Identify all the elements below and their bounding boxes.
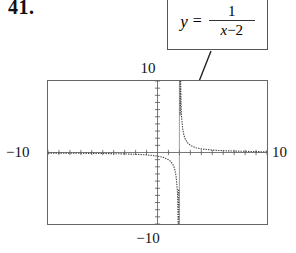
window-label-xmax: 10: [272, 144, 287, 160]
fraction-bar: [209, 20, 255, 21]
window-label-ymax: 10: [0, 60, 296, 76]
window-label-ymin: −10: [0, 230, 296, 246]
denominator-operator: −: [227, 22, 235, 38]
graph-frame: [47, 80, 268, 225]
window-label-xmin: −10: [6, 144, 29, 160]
problem-number: 41.: [8, 0, 35, 18]
fraction: 1 x−2: [209, 3, 255, 39]
fraction-numerator: 1: [222, 3, 242, 19]
denominator-constant: 2: [236, 22, 244, 38]
graph-plot: [48, 81, 267, 224]
fraction-denominator: x−2: [217, 22, 246, 39]
equation-callout-box: y = 1 x−2: [167, 0, 268, 50]
equals-sign: =: [193, 13, 202, 29]
equation-content: y = 1 x−2: [168, 0, 267, 49]
curve-right-branch: [181, 81, 268, 152]
figure-page: 41. y = 1 x−2 10 −10 −10 10: [0, 0, 296, 253]
equation-lhs: y: [180, 13, 188, 30]
